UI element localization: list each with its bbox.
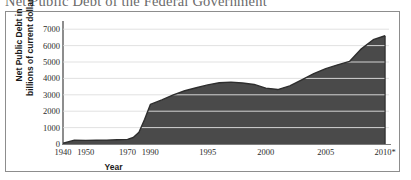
area-chart-svg [63, 21, 389, 144]
y-axis-tick-labels: 01000200030004000500060007000 [34, 21, 60, 155]
y-tick-label: 6000 [43, 41, 60, 51]
x-tick-label: 2010* [374, 147, 395, 157]
y-tick-label: 7000 [43, 24, 60, 34]
y-tick-label: 3000 [43, 90, 60, 100]
y-tick-label: 4000 [43, 73, 60, 83]
figure-box: Net Public Debt in billions of current d… [5, 11, 400, 172]
x-tick-label: 2000 [257, 147, 274, 157]
x-axis-line [62, 144, 391, 145]
figure-title: Net Public Debt of the Federal Governmen… [5, 0, 405, 9]
x-tick-label: 1995 [199, 147, 216, 157]
x-axis-title: Year [105, 162, 123, 172]
y-tick-label: 2000 [43, 106, 60, 116]
x-tick-label: 2005 [317, 147, 334, 157]
y-tick-label: 1000 [43, 123, 60, 133]
x-tick-label: 1950 [77, 147, 94, 157]
x-tick-label: 1940 [55, 147, 72, 157]
plot-area [63, 21, 389, 144]
x-axis-title-wrap: Year [6, 162, 411, 172]
x-tick-label: 1970 [119, 147, 136, 157]
y-tick-label: 5000 [43, 57, 60, 67]
x-tick-label: 1990 [142, 147, 159, 157]
y-axis-title-line1: Net Public Debt in [14, 0, 25, 98]
x-axis-tick-labels: 19401950197019901995200020052010* [6, 147, 411, 161]
